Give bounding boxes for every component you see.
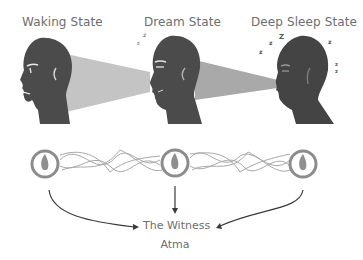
witness-title: The Witness	[143, 219, 207, 232]
awake-head-icon	[20, 38, 72, 124]
beam-waking-to-dream	[66, 54, 150, 112]
svg-text:z: z	[335, 68, 338, 74]
svg-text:Z: Z	[279, 33, 284, 41]
dream-witness-circle	[162, 150, 188, 176]
arrow-from-waking	[49, 190, 135, 227]
deep-sleep-witness-circle	[290, 151, 316, 177]
beam-dream-to-deep-sleep	[195, 60, 278, 100]
svg-text:z: z	[335, 61, 338, 67]
svg-text:z: z	[259, 48, 263, 55]
waking-witness-circle	[32, 151, 58, 177]
dream-z-marks: z	[143, 31, 146, 38]
witness-subtitle: Atma	[143, 238, 207, 251]
svg-text:z: z	[269, 39, 273, 46]
arrow-from-deep-sleep	[220, 190, 303, 226]
svg-text:z: z	[328, 38, 332, 45]
svg-text:z: z	[137, 40, 140, 46]
